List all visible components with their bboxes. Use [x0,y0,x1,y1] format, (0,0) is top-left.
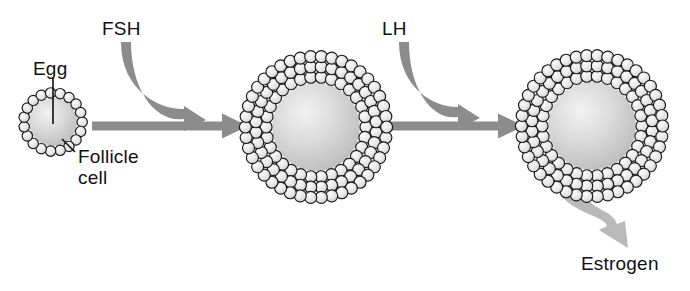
follicle-cell [77,117,87,127]
fsh-label: FSH [102,18,141,39]
lh-arrow [399,42,480,129]
egg-label: Egg [33,58,67,79]
follicle-mature-follicle [515,50,668,203]
follicle-cell [45,146,55,156]
follicle-cell [381,121,393,133]
follicle-cell [19,122,29,132]
follicle-maturation-diagram: Egg FSH LH Estrogen Folliclecell [0,0,690,291]
estrogen-label: Estrogen [581,253,659,274]
follicle-cell [45,88,55,98]
fsh-arrow [121,42,206,131]
oocyte [272,83,360,171]
flow-arrow-stage2-to-stage3 [376,114,524,139]
follicle-cell-label: Folliclecell [78,146,139,188]
oocyte [548,82,636,170]
follicle-cell [657,120,669,132]
follicle-growing-follicle [239,51,392,204]
follicle-cell [36,90,46,100]
follicle-cell [75,107,85,117]
follicle-cell-label-line2: cell [78,167,107,188]
lh-label: LH [382,18,407,39]
follicle-cell-label-line1: Follicle [78,146,139,167]
follicle-cell [55,145,65,155]
